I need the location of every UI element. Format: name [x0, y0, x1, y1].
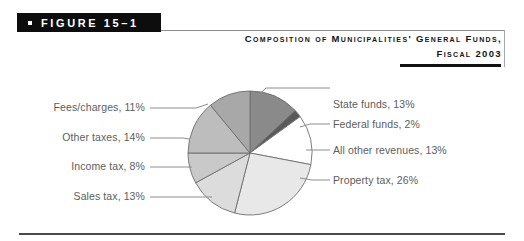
slice-label-income-tax: Income tax, 8% — [0, 160, 145, 172]
slice-label-federal-funds: Federal funds, 2% — [333, 118, 420, 130]
slice-label-state-funds: State funds, 13% — [333, 98, 415, 110]
slice-label-fees-charges: Fees/charges, 11% — [0, 101, 145, 113]
pie-chart — [0, 0, 524, 241]
slice-label-other-taxes: Other taxes, 14% — [0, 131, 145, 143]
pie-slice-group — [188, 91, 312, 215]
slice-label-all-other-revenues: All other revenues, 13% — [333, 144, 447, 156]
pie-chart-svg — [0, 0, 524, 241]
slice-label-property-tax: Property tax, 26% — [333, 174, 418, 186]
leader-line-fees-charges — [150, 104, 208, 108]
figure-container: FIGURE 15–1 Composition of Municipalitie… — [0, 0, 524, 241]
slice-label-sales-tax: Sales tax, 13% — [0, 190, 145, 202]
figure-bottom-rule — [19, 233, 505, 235]
leader-line-other-taxes — [150, 138, 189, 139]
